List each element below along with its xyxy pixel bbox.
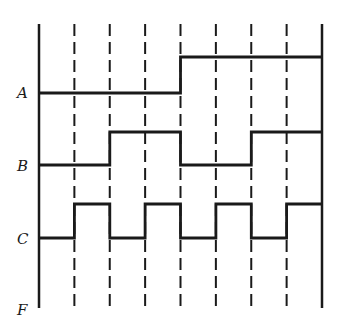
waveform-b — [39, 132, 322, 165]
timing-diagram-svg — [0, 0, 340, 331]
signal-label-a: A — [17, 86, 28, 101]
signal-label-b: B — [17, 159, 28, 174]
timing-diagram: A B C F — [0, 0, 340, 331]
waveform-c — [39, 204, 322, 238]
signal-label-f: F — [17, 303, 27, 318]
waveform-a — [39, 57, 322, 93]
signal-waveforms — [39, 57, 322, 238]
signal-label-c: C — [17, 232, 28, 247]
